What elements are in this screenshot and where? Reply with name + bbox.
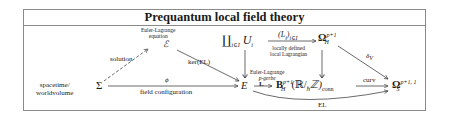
omega-s-object: Ωp+1, 1S bbox=[392, 80, 399, 91]
el-label: EL bbox=[318, 102, 327, 109]
euler-lagrange-equation-caption: Euler-Lagrange equation bbox=[141, 27, 175, 39]
arrow-solution bbox=[104, 49, 148, 81]
arrow-delta-v bbox=[338, 46, 388, 79]
curv-label: curv bbox=[363, 77, 375, 84]
ker-el-label: ker(EL) bbox=[188, 59, 210, 66]
field-configuration-label: field configuration bbox=[140, 89, 192, 96]
solution-label: solution bbox=[110, 56, 133, 63]
delta-v-label: δV bbox=[366, 53, 373, 60]
euler-lagrange-equation-object: ℰ bbox=[163, 40, 168, 49]
field-bundle-object: E bbox=[241, 81, 247, 92]
arrow-el bbox=[253, 91, 388, 100]
coproduct-object: ∐i∈I Ui bbox=[222, 34, 253, 46]
spacetime-worldvolume-label: spacetime/ worldvolume bbox=[36, 81, 73, 97]
omega-h-object: Ωp+1H bbox=[318, 33, 329, 44]
sigma-object: Σ bbox=[96, 80, 102, 91]
arrows-layer bbox=[0, 0, 450, 120]
el-pgerbe-symbol: L bbox=[259, 81, 264, 88]
b-h-conn-object: Bp+1H(ℝ/ℏℤ)conn bbox=[276, 80, 334, 91]
local-lagrangians-label: (Li)i∈I bbox=[278, 31, 298, 39]
phi-label: ϕ bbox=[165, 77, 169, 84]
local-lagrangians-caption: locally defined local Lagrangian bbox=[270, 45, 307, 57]
